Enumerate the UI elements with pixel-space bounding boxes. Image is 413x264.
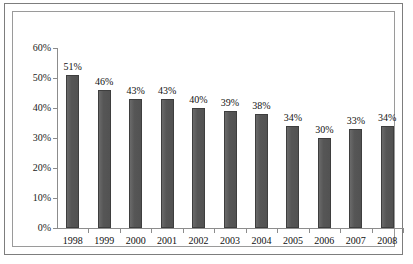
- y-axis-tick: [53, 198, 57, 199]
- bar: [98, 90, 111, 228]
- bar-fill: [130, 100, 141, 227]
- y-axis-tick-label: 0%: [38, 221, 51, 234]
- bar-value-label: 33%: [339, 115, 373, 127]
- bar-fill: [350, 130, 361, 227]
- bar-fill: [319, 139, 330, 227]
- x-axis-tick: [120, 229, 121, 233]
- bar-fill: [193, 109, 204, 227]
- bar: [318, 138, 331, 228]
- bar-value-label: 46%: [87, 76, 121, 88]
- x-axis-tick: [309, 229, 310, 233]
- bar: [129, 99, 142, 228]
- x-axis-line: [57, 228, 404, 229]
- bar-value-label: 40%: [182, 94, 216, 106]
- y-axis-tick-label: 10%: [33, 191, 51, 204]
- bar-value-label: 34%: [276, 112, 310, 124]
- x-axis-tick: [277, 229, 278, 233]
- plot-frame: 0%10%20%30%40%50%60% 51%46%43%43%40%39%3…: [12, 11, 395, 247]
- x-axis-tick: [151, 229, 152, 233]
- bar: [224, 111, 237, 228]
- y-axis-tick: [53, 138, 57, 139]
- bar-fill: [162, 100, 173, 227]
- bar-value-label: 43%: [119, 85, 153, 97]
- bar-value-label: 51%: [56, 61, 90, 73]
- y-axis-tick: [53, 78, 57, 79]
- y-axis-tick-label: 50%: [33, 71, 51, 84]
- x-axis-tick: [340, 229, 341, 233]
- bar-fill: [225, 112, 236, 227]
- bar-value-label: 43%: [150, 85, 184, 97]
- y-axis-tick: [53, 108, 57, 109]
- y-axis-tick-label: 20%: [33, 161, 51, 174]
- y-axis-line: [57, 48, 58, 229]
- x-axis-tick: [183, 229, 184, 233]
- x-axis-tick: [372, 229, 373, 233]
- y-axis-tick: [53, 168, 57, 169]
- x-axis-tick: [403, 229, 404, 233]
- y-axis-tick: [53, 228, 57, 229]
- bar-value-label: 30%: [307, 124, 341, 136]
- chart-figure: 0%10%20%30%40%50%60% 51%46%43%43%40%39%3…: [4, 3, 403, 255]
- y-axis-tick-label: 30%: [33, 131, 51, 144]
- plot-area: 0%10%20%30%40%50%60% 51%46%43%43%40%39%3…: [57, 48, 403, 228]
- x-axis-tick: [214, 229, 215, 233]
- y-axis-tick-label: 60%: [33, 41, 51, 54]
- x-axis-tick: [246, 229, 247, 233]
- bar: [66, 75, 79, 228]
- bar-fill: [99, 91, 110, 227]
- bar-fill: [287, 127, 298, 227]
- x-axis-tick: [88, 229, 89, 233]
- bar: [286, 126, 299, 228]
- bar-fill: [382, 127, 393, 227]
- bar: [381, 126, 394, 228]
- x-axis-tick-label: 2008: [368, 234, 406, 247]
- bar-fill: [256, 115, 267, 227]
- bar: [349, 129, 362, 228]
- bar: [192, 108, 205, 228]
- bar-fill: [67, 76, 78, 227]
- bar-value-label: 34%: [370, 112, 404, 124]
- bar: [161, 99, 174, 228]
- bar: [255, 114, 268, 228]
- bar-value-label: 38%: [244, 100, 278, 112]
- y-axis-tick: [53, 48, 57, 49]
- y-axis-tick-label: 40%: [33, 101, 51, 114]
- bar-value-label: 39%: [213, 97, 247, 109]
